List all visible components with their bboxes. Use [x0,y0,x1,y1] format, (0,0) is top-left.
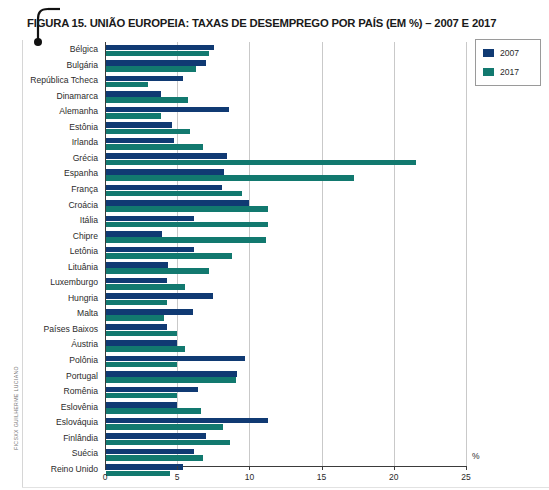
bar-2017 [106,113,161,119]
legend-swatch-2017 [483,68,494,76]
category-label: Bélgica [0,44,98,54]
bar-2007 [106,371,237,377]
bar-2017 [106,300,167,306]
bar-row: Eslováquia [0,416,549,432]
bar-2007 [106,216,194,222]
bar-2017 [106,346,185,352]
bar-2017 [106,237,266,243]
bar-2007 [106,356,245,362]
bar-2007 [106,433,206,439]
category-label: Hungria [0,293,98,303]
bar-2007 [106,60,206,66]
bar-2017 [106,82,148,88]
category-label: Eslováquia [0,417,98,427]
bar-row: Croácia [0,199,549,215]
bar-2007 [106,247,194,253]
x-axis-tick [394,466,395,470]
x-axis-tick-label: 0 [103,472,108,482]
bar-2007 [106,340,177,346]
bar-row: Eslovênia [0,401,549,417]
bar-row: Áustria [0,338,549,354]
bar-2017 [106,129,190,135]
bar-row: Malta [0,307,549,323]
category-label: Malta [0,308,98,318]
bar-2017 [106,160,416,166]
bar-2017 [106,191,242,197]
bar-row: Chipre [0,230,549,246]
category-label: Lituânia [0,262,98,272]
legend-label-2017: 2017 [500,67,519,77]
category-label: Suécia [0,448,98,458]
category-label: República Tcheca [0,75,98,85]
bar-row: Bulgária [0,59,549,75]
chart-container: % BélgicaBulgáriaRepública TchecaDinamar… [0,36,549,490]
category-label: Dinamarca [0,91,98,101]
bar-2007 [106,464,183,470]
bar-2017 [106,66,196,72]
category-label: Grécia [0,153,98,163]
bar-2007 [106,418,268,424]
bar-row: Portugal [0,370,549,386]
category-label: Polônia [0,355,98,365]
category-label: Áustria [0,339,98,349]
x-axis-tick-label: 20 [389,472,398,482]
category-label: Estônia [0,122,98,132]
bar-row: Lituânia [0,261,549,277]
bar-row: Dinamarca [0,90,549,106]
bar-row: Países Baixos [0,323,549,339]
bar-2007 [106,185,222,191]
bar-2017 [106,471,170,477]
x-axis-tick-label: 15 [317,472,326,482]
bar-row: França [0,183,549,199]
x-axis-tick-label: 5 [175,472,180,482]
bar-row: Polônia [0,354,549,370]
bar-2007 [106,169,224,175]
bar-2007 [106,200,249,206]
bar-2007 [106,293,213,299]
bar-2017 [106,206,268,212]
category-label: Finlândia [0,433,98,443]
bar-2017 [106,268,209,274]
bar-2017 [106,440,230,446]
bar-row: Irlanda [0,136,549,152]
bar-2017 [106,284,185,290]
bar-2017 [106,315,164,321]
bar-2017 [106,424,223,430]
bar-row: Grécia [0,152,549,168]
page-title: FIGURA 15. UNIÃO EUROPEIA: TAXAS DE DESE… [27,17,496,29]
x-axis-tick [105,466,106,470]
bar-row: Itália [0,214,549,230]
bar-2017 [106,222,268,228]
bar-2017 [106,144,203,150]
x-axis-tick-label: 25 [461,472,470,482]
bar-row: República Tcheca [0,74,549,90]
bar-row: Estônia [0,121,549,137]
bar-row: Espanha [0,167,549,183]
bar-row: Suécia [0,447,549,463]
bar-2017 [106,51,209,57]
category-label: Países Baixos [0,324,98,334]
bar-2017 [106,97,188,103]
bar-2017 [106,331,177,337]
bar-2007 [106,91,161,97]
bar-2007 [106,324,167,330]
bar-row: Romênia [0,385,549,401]
x-axis-tick [177,466,178,470]
bar-row: Hungria [0,292,549,308]
bar-2007 [106,262,168,268]
legend-item-2017: 2017 [483,67,519,77]
bar-2007 [106,153,227,159]
x-axis-tick [466,466,467,470]
bar-2007 [106,402,177,408]
bar-2007 [106,278,167,284]
category-label: Reino Unido [0,464,98,474]
bar-row: Alemanha [0,105,549,121]
bar-2007 [106,138,174,144]
category-label: Eslovênia [0,402,98,412]
category-label: Romênia [0,386,98,396]
bar-2007 [106,309,193,315]
category-label: Croácia [0,200,98,210]
category-label: Bulgária [0,60,98,70]
category-label: Irlanda [0,137,98,147]
bar-2017 [106,175,354,181]
